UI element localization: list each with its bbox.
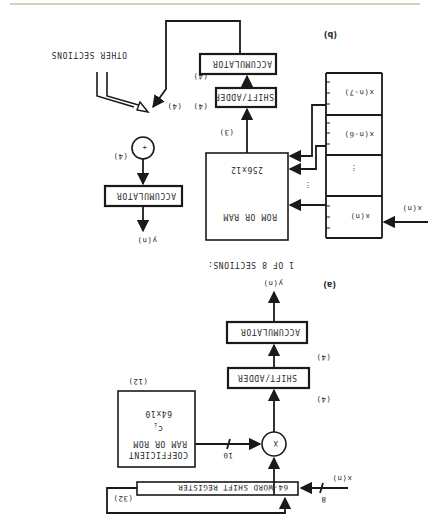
shift-register-count: (32): [113, 494, 133, 503]
other-sections-bus: [97, 72, 142, 107]
section-title: 1 OF 8 SECTIONS:: [207, 260, 294, 269]
shift-adder-label-a: SHIFT/ADDER: [237, 373, 297, 382]
caption-b: (b): [324, 30, 337, 39]
other-sections-arrowhead: [137, 102, 148, 112]
register-cell-xn: x(n): [350, 212, 370, 221]
coefficient-count: (12): [128, 377, 148, 386]
accumulator-count-a: (4): [316, 353, 331, 362]
accumulator-label-a: ACCUMULATOR: [240, 327, 300, 336]
output-label-yn-a: y(n): [263, 279, 283, 288]
final-accumulator-label: ACCUMULATOR: [116, 191, 176, 200]
register-ellipsis: ⋮: [350, 164, 359, 173]
bitline-xn-6: [290, 146, 326, 169]
block-diagram: 8 x(n) 64-WORD SHIFT REGISTER (32) X COE…: [0, 0, 440, 528]
part-a-direct-form-filter: 8 x(n) 64-WORD SHIFT REGISTER (32) X COE…: [107, 279, 352, 513]
shift-adder-count-b: (4): [193, 102, 208, 111]
bus-width-8: 8: [321, 495, 326, 504]
output-label-yn-b: y(n): [137, 236, 157, 245]
multiplier-symbol: X: [273, 439, 278, 448]
bitline-xn-7: [290, 105, 326, 156]
adder-symbol: +: [142, 143, 147, 152]
coeff-line-4: 64x10: [145, 409, 172, 418]
register-cell-xn-6: x(n-6): [344, 130, 374, 139]
rom-line-2: 256x12: [231, 165, 264, 174]
bitline-ellipsis: ⋮: [304, 181, 313, 190]
coeff-line-2: RAM OR ROM: [133, 439, 187, 448]
other-sections-label: OTHER SECTIONS: [51, 50, 127, 59]
register-column: x(n) x(n-6) x(n-7) ⋮: [326, 73, 382, 238]
coeff-bus-width: 10: [223, 451, 233, 460]
shift-adder-count-a: (4): [316, 395, 331, 404]
accumulator-label-b: ACCUMULATOR: [212, 59, 272, 68]
register-cell-xn-7: x(n-7): [344, 88, 374, 97]
adder-count: (4): [113, 152, 128, 161]
rom-count: (3): [219, 128, 234, 137]
adder-input-count: (4): [167, 102, 182, 111]
part-b-distributed-arithmetic: 1 OF 8 SECTIONS: x(n) x(n) x(n-6) x(n-7)…: [51, 21, 428, 269]
caption-a: (a): [323, 280, 336, 289]
shift-register-label: 64-WORD SHIFT REGISTER: [178, 483, 288, 492]
rom-line-1: ROM OR RAM: [223, 212, 277, 221]
rotated-figure: 8 x(n) 64-WORD SHIFT REGISTER (32) X COE…: [10, 4, 428, 513]
input-label-xn-a: x(n): [332, 474, 352, 483]
coeff-line-1: COEFFICIENT: [128, 450, 188, 459]
input-label-xn-b: x(n): [402, 204, 422, 213]
shift-adder-label-b: SHIFT/ADDER: [214, 92, 274, 101]
